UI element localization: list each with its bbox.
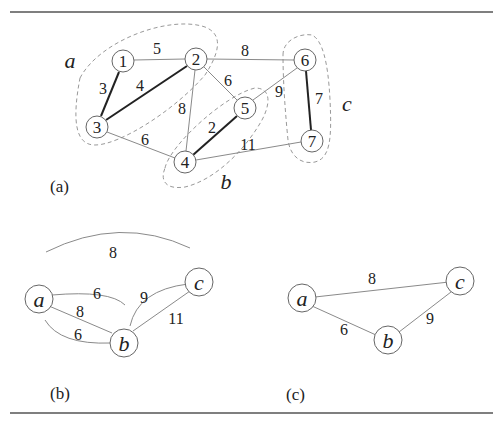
- weight-2-4: 8: [178, 100, 186, 117]
- edge-b-a-c: [46, 232, 190, 252]
- svg-text:b: b: [119, 331, 130, 356]
- edge-1-2: [134, 59, 185, 60]
- weight-2-3: 4: [136, 77, 144, 94]
- edge-b-a-b-upper: [52, 294, 125, 305]
- weight-b-a-b-upper: 6: [93, 285, 101, 302]
- node-4: 4: [174, 151, 196, 173]
- caption-a: (a): [50, 177, 69, 196]
- node-1: 1: [112, 50, 134, 72]
- weight-b-a-b-straight: 8: [76, 303, 84, 320]
- weight-2-6: 8: [241, 42, 249, 59]
- weight-b-b-c-straight: 11: [168, 310, 183, 327]
- svg-text:a: a: [34, 287, 45, 312]
- node-6: 6: [294, 49, 316, 71]
- weight-5-6: 9: [275, 83, 283, 100]
- caption-c: (c): [286, 385, 305, 404]
- weight-c-b-c: 9: [426, 310, 434, 327]
- weight-1-2: 5: [153, 40, 161, 57]
- panel-b: 8 6 8 6 9 11 a b c (b): [25, 232, 213, 402]
- svg-text:7: 7: [308, 132, 317, 151]
- node-c-a: a: [288, 284, 316, 312]
- svg-text:4: 4: [181, 153, 190, 172]
- node-7: 7: [301, 130, 323, 152]
- node-b-b: b: [110, 329, 138, 357]
- weight-b-a-b-lower: 6: [74, 326, 82, 343]
- edge-2-5: [204, 67, 237, 100]
- weight-3-4: 6: [141, 131, 149, 148]
- edge-c-b-c: [399, 292, 451, 332]
- weight-c-a-c: 8: [368, 270, 376, 287]
- weight-b-a-c: 8: [109, 244, 117, 261]
- svg-text:1: 1: [119, 52, 128, 71]
- weight-c-a-b: 6: [340, 321, 348, 338]
- edge-6-7: [306, 71, 311, 130]
- panel-c: 8 6 9 a b c (c): [286, 267, 474, 404]
- weight-4-7: 11: [240, 136, 255, 153]
- svg-text:2: 2: [192, 50, 201, 69]
- edge-2-6: [207, 59, 294, 60]
- cluster-label-b: b: [221, 169, 232, 194]
- cluster-label-a: a: [65, 48, 76, 73]
- node-b-a: a: [25, 285, 53, 313]
- node-c-b: b: [374, 326, 402, 354]
- cluster-label-c: c: [342, 91, 352, 116]
- weight-b-b-c-curve: 9: [140, 289, 148, 306]
- weight-1-3: 3: [99, 80, 107, 97]
- caption-b: (b): [50, 384, 70, 403]
- svg-text:b: b: [383, 328, 394, 353]
- node-c-c: c: [446, 267, 474, 295]
- node-3: 3: [86, 116, 108, 138]
- weight-6-7: 7: [315, 90, 323, 107]
- svg-text:a: a: [297, 286, 308, 311]
- figure: 5 3 4 8 6 8 6 2 9 11 7 1 2 3 4 5 6 7 a b…: [0, 0, 503, 431]
- svg-text:3: 3: [93, 118, 102, 137]
- edge-c-a-c: [315, 282, 449, 297]
- panel-a: 5 3 4 8 6 8 6 2 9 11 7 1 2 3 4 5 6 7 a b…: [50, 24, 352, 196]
- weight-4-5: 2: [208, 119, 216, 136]
- node-2: 2: [185, 48, 207, 70]
- edge-2-4: [186, 70, 195, 151]
- svg-text:c: c: [455, 269, 465, 294]
- svg-text:5: 5: [241, 99, 250, 118]
- svg-text:c: c: [194, 270, 204, 295]
- weight-2-5: 6: [224, 72, 232, 89]
- node-5: 5: [234, 97, 256, 119]
- svg-text:6: 6: [301, 51, 310, 70]
- node-b-c: c: [185, 268, 213, 296]
